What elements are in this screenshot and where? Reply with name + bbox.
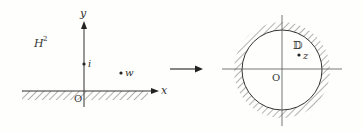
x-axis-label: x <box>161 84 168 97</box>
x-axis-arrowhead-icon <box>151 88 159 94</box>
region-superscript: 2 <box>43 35 47 43</box>
point-i-label: i <box>88 58 91 69</box>
y-axis-label: y <box>79 7 87 20</box>
mapping-arrow <box>170 66 203 73</box>
unit-disk-diagram: O 𝔻 z <box>222 15 342 126</box>
disk-region-label: 𝔻 <box>293 39 303 52</box>
upper-half-plane-diagram: y x O i w H 2 <box>22 7 168 107</box>
point-i-dot <box>82 62 85 65</box>
diagram-canvas: y x O i w H 2 O 𝔻 z <box>0 0 363 132</box>
y-axis-arrowhead-icon <box>81 21 87 29</box>
arrow-right-icon <box>195 66 203 73</box>
point-z-dot <box>297 53 300 56</box>
boundary-hatching <box>22 91 148 100</box>
point-z-label: z <box>302 50 309 61</box>
origin-label: O <box>74 93 82 104</box>
point-w-dot <box>119 71 122 74</box>
point-w-label: w <box>125 67 134 78</box>
disk-origin-label: O <box>272 72 280 83</box>
